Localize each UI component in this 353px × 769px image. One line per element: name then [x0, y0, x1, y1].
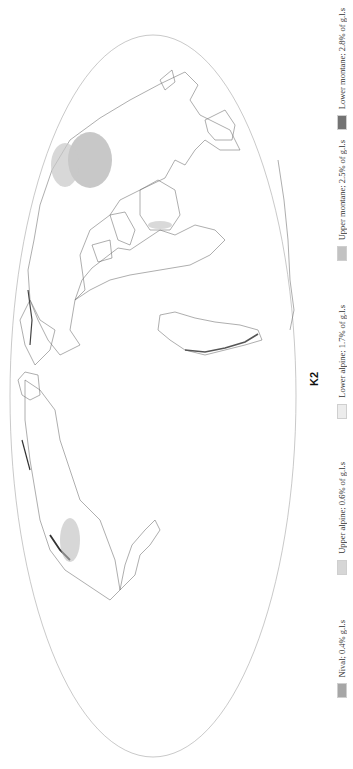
legend-label-lower-montane: Lower montane; 2.8% of g.l.s — [337, 8, 347, 109]
legend-swatch-nival — [337, 683, 347, 698]
legend-label-upper-alpine: Upper alpine; 0.6% of g.l.s — [337, 462, 347, 554]
legend-item-upper-alpine: Upper alpine; 0.6% of g.l.s — [331, 462, 353, 575]
legend-label-upper-montane: Upper montane; 2.5% of g.l.s — [337, 140, 347, 240]
east-africa-zone — [148, 221, 172, 229]
legend-swatch-lower-alpine — [337, 404, 347, 419]
world-map — [0, 0, 353, 769]
map-outline — [10, 35, 296, 757]
legend-item-nival: Nival; 0.4% g.l.s — [331, 620, 353, 698]
legend-item-upper-montane: Upper montane; 2.5% of g.l.s — [331, 140, 353, 261]
legend-swatch-lower-montane — [337, 115, 347, 130]
rockies-light-zone — [60, 518, 80, 562]
legend-label-nival: Nival; 0.4% g.l.s — [337, 620, 347, 677]
legend-item-lower-alpine: Lower alpine; 1.7% of g.l.s — [331, 305, 353, 419]
legend-swatch-upper-alpine — [337, 560, 347, 575]
map-title: K2 — [308, 372, 320, 386]
central-asia-zone — [51, 143, 79, 187]
legend-swatch-upper-montane — [337, 246, 347, 261]
legend-label-lower-alpine: Lower alpine; 1.7% of g.l.s — [337, 305, 347, 398]
legend-item-lower-montane: Lower montane; 2.8% of g.l.s — [331, 8, 353, 130]
